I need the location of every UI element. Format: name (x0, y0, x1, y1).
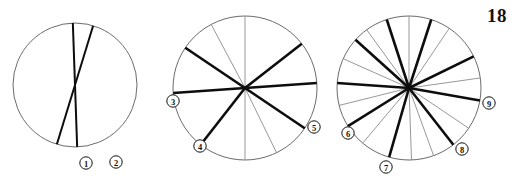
callout-label-1: 1 (80, 157, 92, 169)
panel-2-spoke-thick-5 (245, 44, 302, 88)
figure-container: 123456789 18 (0, 0, 515, 181)
panel-2-spoke-thick-2 (201, 88, 245, 145)
panel-3-spoke-thick-2 (337, 83, 409, 88)
callout-label-8: 8 (456, 143, 468, 155)
panel-3-spoke-thin-3 (339, 88, 409, 105)
callout-number-8: 8 (460, 145, 464, 155)
callout-number-3: 3 (171, 97, 175, 107)
panel-3-spoke-thin-1 (367, 30, 409, 88)
page-number: 18 (487, 6, 507, 25)
panel-2-spoke-thick-3 (245, 88, 305, 128)
callout-label-2: 2 (110, 156, 122, 168)
panel-3-spoke-thick-6 (409, 88, 480, 101)
panel-2-spoke-thin-1 (211, 24, 245, 88)
panel-2-spoke-thick-0 (185, 48, 245, 88)
callout-labels-group: 123456789 (80, 95, 495, 173)
panel-1 (13, 23, 137, 147)
circle-subdivision-diagram: 123456789 (0, 0, 515, 181)
panel-3-spoke-thin-5 (409, 88, 412, 160)
callout-number-5: 5 (312, 123, 316, 133)
callout-number-1: 1 (84, 159, 88, 169)
panel-2-spoke-thick-4 (245, 83, 317, 88)
panels-group (13, 16, 481, 160)
callout-label-6: 6 (342, 127, 354, 139)
callout-label-4: 4 (194, 140, 206, 152)
panel-1-chord-1 (57, 26, 93, 145)
callout-number-2: 2 (114, 158, 118, 168)
panel-2 (173, 16, 317, 160)
callout-label-5: 5 (308, 121, 320, 133)
panel-3-spoke-thick-5 (409, 88, 453, 145)
callout-label-9: 9 (483, 97, 495, 109)
callout-label-3: 3 (167, 95, 179, 107)
panel-2-spoke-thick-1 (173, 88, 245, 93)
panel-3-spoke-thin-6 (409, 88, 434, 156)
callout-number-6: 6 (346, 129, 350, 139)
panel-3 (337, 16, 481, 160)
callout-label-7: 7 (380, 161, 392, 173)
callout-number-9: 9 (487, 99, 491, 109)
